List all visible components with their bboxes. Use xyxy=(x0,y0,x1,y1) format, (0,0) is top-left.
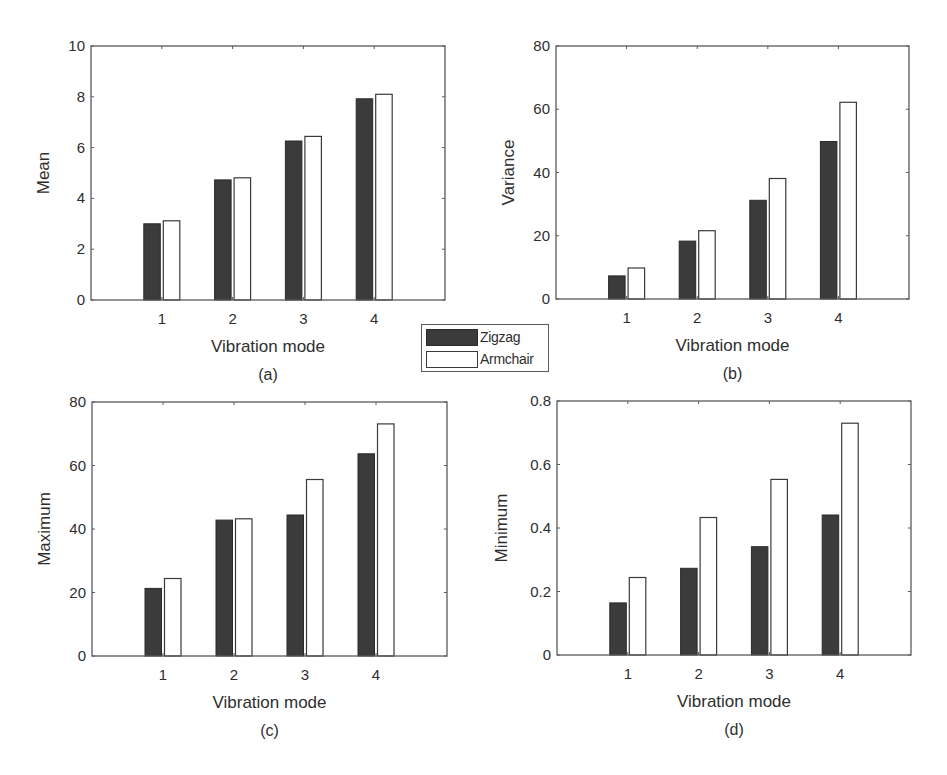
x-axis-label: Vibration mode xyxy=(675,336,789,355)
x-tick-label: 1 xyxy=(159,666,167,683)
y-tick-label: 80 xyxy=(69,393,86,410)
x-tick-label: 4 xyxy=(370,310,378,327)
x-tick-label: 2 xyxy=(230,666,238,683)
bar-armchair-mode-1 xyxy=(165,579,182,657)
x-tick-label: 3 xyxy=(765,665,773,682)
y-tick-label: 0.8 xyxy=(530,392,551,409)
x-tick-label: 3 xyxy=(764,309,772,326)
y-tick-label: 0 xyxy=(542,290,550,307)
bar-armchair-mode-2 xyxy=(700,518,717,656)
y-axis-label: Minimum xyxy=(492,494,511,563)
panel-label: (c) xyxy=(260,722,279,739)
bar-armchair-mode-3 xyxy=(305,136,322,300)
bar-armchair-mode-4 xyxy=(376,94,393,300)
panel-label: (b) xyxy=(723,365,743,382)
bar-armchair-mode-3 xyxy=(307,480,324,657)
y-tick-label: 0.2 xyxy=(530,583,551,600)
x-axis-label: Vibration mode xyxy=(212,693,326,712)
bar-armchair-mode-1 xyxy=(629,578,646,656)
y-axis-label: Mean xyxy=(34,152,53,195)
zigzag-swatch-icon xyxy=(426,329,478,346)
bar-zigzag-mode-3 xyxy=(750,200,767,299)
x-tick-label: 4 xyxy=(372,666,380,683)
bar-zigzag-mode-2 xyxy=(216,520,233,656)
bar-zigzag-mode-3 xyxy=(285,141,302,300)
bar-zigzag-mode-4 xyxy=(822,515,839,655)
x-tick-label: 1 xyxy=(158,310,166,327)
x-tick-label: 2 xyxy=(693,309,701,326)
y-tick-label: 40 xyxy=(69,520,86,537)
bar-armchair-mode-1 xyxy=(628,268,645,299)
bar-armchair-mode-2 xyxy=(699,231,716,299)
bar-armchair-mode-4 xyxy=(378,424,395,656)
bar-armchair-mode-4 xyxy=(842,423,859,655)
y-tick-label: 20 xyxy=(69,584,86,601)
legend: Zigzag Armchair xyxy=(421,324,549,372)
y-tick-label: 0 xyxy=(78,647,86,664)
x-axis-label: Vibration mode xyxy=(211,337,325,356)
legend-item-armchair: Armchair xyxy=(426,350,534,368)
x-tick-label: 3 xyxy=(299,310,307,327)
bar-zigzag-mode-1 xyxy=(145,588,162,656)
y-axis-label: Maximum xyxy=(35,492,54,566)
panel-label: (a) xyxy=(258,366,278,383)
subplot-d: 123400.20.40.60.8Vibration mode(d)Minimu… xyxy=(492,392,911,738)
bar-zigzag-mode-4 xyxy=(820,142,837,300)
bar-zigzag-mode-3 xyxy=(751,547,768,655)
y-tick-label: 80 xyxy=(533,37,550,54)
y-tick-label: 40 xyxy=(533,164,550,181)
y-tick-label: 0.4 xyxy=(530,519,551,536)
bar-armchair-mode-2 xyxy=(236,519,253,656)
legend-label-zigzag: Zigzag xyxy=(480,329,520,345)
x-tick-label: 1 xyxy=(622,309,630,326)
y-tick-label: 20 xyxy=(533,227,550,244)
subplot-b: 1234020406080Vibration mode(b)Variance xyxy=(499,37,909,382)
bar-zigzag-mode-1 xyxy=(610,603,627,655)
y-tick-label: 6 xyxy=(77,139,85,156)
figure-canvas: 12340246810Vibration mode(a)Mean12340204… xyxy=(0,0,947,775)
legend-label-armchair: Armchair xyxy=(480,351,534,367)
y-tick-label: 2 xyxy=(77,240,85,257)
x-tick-label: 3 xyxy=(301,666,309,683)
bar-zigzag-mode-3 xyxy=(287,515,304,656)
y-tick-label: 0 xyxy=(77,291,85,308)
y-tick-label: 0 xyxy=(543,646,551,663)
x-tick-label: 1 xyxy=(624,665,632,682)
bar-armchair-mode-4 xyxy=(840,102,857,299)
bar-zigzag-mode-4 xyxy=(356,99,373,300)
bar-zigzag-mode-2 xyxy=(679,241,696,299)
y-tick-label: 60 xyxy=(533,100,550,117)
y-tick-label: 10 xyxy=(68,37,85,54)
y-tick-label: 60 xyxy=(69,457,86,474)
y-axis-label: Variance xyxy=(499,140,518,206)
subplot-a: 12340246810Vibration mode(a)Mean xyxy=(34,37,445,383)
bar-zigzag-mode-4 xyxy=(358,454,375,656)
armchair-swatch-icon xyxy=(426,351,478,368)
bar-armchair-mode-1 xyxy=(163,221,180,300)
bar-zigzag-mode-1 xyxy=(609,276,626,299)
x-axis-label: Vibration mode xyxy=(677,692,791,711)
y-tick-label: 4 xyxy=(77,189,85,206)
bar-zigzag-mode-2 xyxy=(681,568,698,655)
y-tick-label: 8 xyxy=(77,88,85,105)
legend-item-zigzag: Zigzag xyxy=(426,328,520,346)
y-tick-label: 0.6 xyxy=(530,456,551,473)
subplot-c: 1234020406080Vibration mode(c)Maximum xyxy=(35,393,447,739)
bar-armchair-mode-3 xyxy=(771,479,788,655)
panel-label: (d) xyxy=(724,721,744,738)
bar-zigzag-mode-2 xyxy=(215,180,232,300)
bar-armchair-mode-2 xyxy=(234,178,251,300)
x-tick-label: 2 xyxy=(694,665,702,682)
bar-zigzag-mode-1 xyxy=(144,224,161,300)
x-tick-label: 2 xyxy=(228,310,236,327)
x-tick-label: 4 xyxy=(836,665,844,682)
bar-armchair-mode-3 xyxy=(769,179,786,300)
x-tick-label: 4 xyxy=(834,309,842,326)
